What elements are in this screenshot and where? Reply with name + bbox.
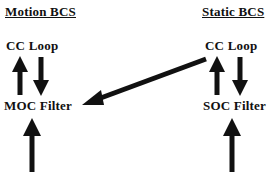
arrow-cc-loop-to-soc-filter	[232, 57, 248, 96]
arrow-layer	[0, 0, 274, 174]
arrow-moc-filter-to-cc-loop	[12, 56, 28, 95]
heading-static-bcs: Static BCS	[202, 5, 264, 18]
node-motion-cc-loop: CC Loop	[6, 39, 58, 52]
node-soc-filter: SOC Filter	[203, 99, 266, 112]
diagram-canvas: Motion BCS Static BCS CC Loop MOC Filter…	[0, 0, 274, 174]
arrow-input-to-soc-filter	[223, 118, 241, 172]
node-moc-filter: MOC Filter	[4, 99, 72, 112]
heading-motion-bcs: Motion BCS	[5, 5, 76, 18]
arrow-cc-loop-to-moc-filter	[33, 57, 49, 96]
arrow-input-to-moc-filter	[23, 118, 41, 172]
node-static-cc-loop: CC Loop	[205, 39, 257, 52]
arrow-soc-filter-to-cc-loop	[209, 56, 225, 95]
arrow-static-cc-loop-to-moc-filter	[82, 59, 206, 105]
